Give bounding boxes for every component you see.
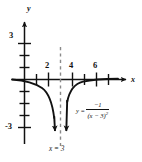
y-axis-label: y — [27, 5, 31, 13]
equation-numerator: −1 — [86, 102, 109, 109]
curve-right-arrow — [66, 100, 67, 131]
curve-right-branch — [67, 79, 118, 102]
asymptote-label: x = 3 — [49, 146, 64, 153]
equation-fraction: −1 (x − 3)2 — [86, 102, 109, 120]
equation-label: y = −1 (x − 3)2 — [76, 102, 109, 120]
x-tick-label-6: 6 — [93, 61, 97, 70]
equation-equals: = — [79, 108, 86, 115]
denominator-exponent: 2 — [106, 111, 108, 116]
graph-canvas — [0, 0, 142, 162]
x-tick-label-2: 2 — [45, 61, 49, 70]
y-tick-label-minus-3: -3 — [5, 122, 12, 131]
x-tick-label-4: 4 — [69, 61, 73, 70]
curve-left-arrow — [54, 116, 55, 131]
graph-figure: y x 3 -3 2 4 6 x = 3 y = −1 (x − 3)2 — [0, 0, 142, 162]
y-tick-label-3: 3 — [9, 31, 13, 40]
denominator-base: (x − 3) — [87, 112, 105, 119]
x-axis-label: x — [131, 76, 135, 84]
equation-denominator: (x − 3)2 — [86, 111, 109, 120]
